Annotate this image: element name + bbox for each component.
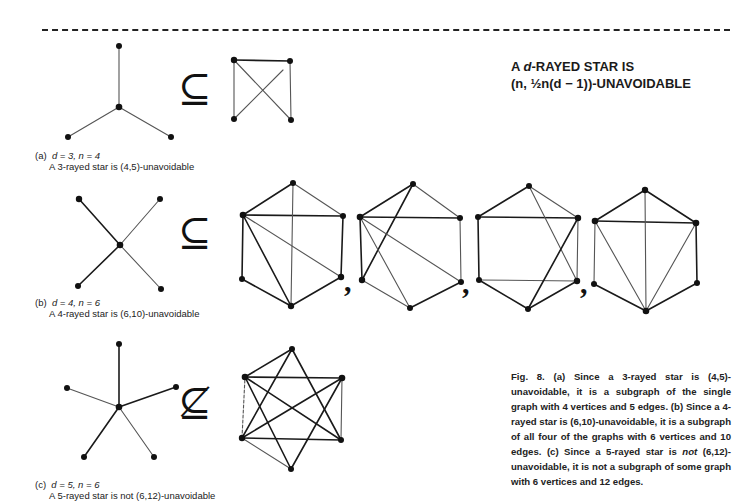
separator-comma-1: , bbox=[344, 264, 352, 298]
caption-a-statement: A 3-rayed star is (4,5)-unavoidable bbox=[35, 161, 194, 172]
subset-symbol-b: ⊆ bbox=[178, 212, 212, 252]
figure-caption-emphasis: not bbox=[682, 446, 697, 457]
caption-a-params: d = 3, n = 4 bbox=[52, 150, 100, 161]
graph-b2-6-vertices-10-edges bbox=[357, 181, 464, 311]
caption-b-statement: A 4-rayed star is (6,10)-unavoidable bbox=[35, 308, 200, 319]
star-c-5-rayed bbox=[64, 341, 179, 460]
star-b-4-rayed bbox=[75, 196, 164, 292]
separator-comma-3: , bbox=[580, 266, 588, 300]
caption-b: (b) d = 4, n = 6 A 4-rayed star is (6,10… bbox=[35, 297, 200, 319]
caption-c-label: (c) bbox=[35, 479, 46, 490]
figure-caption: Fig. 8. (a) Since a 3-rayed star is (4,5… bbox=[511, 369, 731, 489]
headline-line-1: A d-RAYED STAR IS bbox=[511, 58, 691, 75]
caption-c-statement: A 5-rayed star is not (6,12)-unavoidable bbox=[35, 490, 215, 501]
headline-line-2: (n, ½n(d − 1))-UNAVOIDABLE bbox=[511, 75, 691, 92]
figure-caption-part-1: Fig. 8. (a) Since a 3-rayed star is (4,5… bbox=[511, 371, 731, 457]
graph-c-6-vertices-12-edges bbox=[239, 346, 346, 472]
headline-suffix: -RAYED STAR IS bbox=[531, 59, 634, 74]
star-a-3-rayed bbox=[65, 43, 174, 140]
separator-comma-2: , bbox=[462, 266, 470, 300]
headline-prefix: A bbox=[511, 59, 524, 74]
graph-b3-6-vertices-10-edges bbox=[475, 183, 581, 312]
subset-symbol-a: ⊆ bbox=[178, 68, 212, 108]
caption-c: (c) d = 5, n = 6 A 5-rayed star is not (… bbox=[35, 479, 215, 501]
graph-a-4-vertices-5-edges bbox=[231, 57, 294, 123]
caption-c-params: d = 5, n = 6 bbox=[51, 479, 99, 490]
caption-a-label: (a) bbox=[35, 150, 47, 161]
caption-a: (a) d = 3, n = 4 A 3-rayed star is (4,5)… bbox=[35, 150, 194, 172]
graph-b1-6-vertices-10-edges bbox=[239, 180, 346, 309]
graph-b4-6-vertices-10-edges bbox=[591, 187, 700, 315]
not-subset-symbol-c: ⊈ bbox=[178, 382, 212, 422]
caption-b-label: (b) bbox=[35, 297, 47, 308]
headline: A d-RAYED STAR IS (n, ½n(d − 1))-UNAVOID… bbox=[511, 58, 691, 92]
caption-b-params: d = 4, n = 6 bbox=[52, 297, 100, 308]
